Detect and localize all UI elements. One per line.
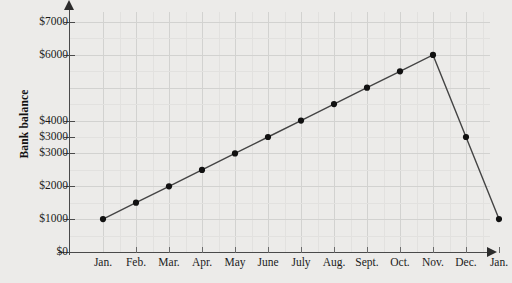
- x-axis-tick: [334, 247, 335, 253]
- grid-line-vertical: [169, 12, 170, 252]
- grid-line-horizontal-minor: [70, 170, 490, 171]
- grid-line-vertical-minor: [384, 12, 385, 252]
- y-axis-tick-label: $6000: [39, 49, 68, 61]
- grid-lines: [70, 12, 490, 252]
- grid-line-horizontal-minor: [70, 71, 490, 72]
- grid-line-vertical: [400, 12, 401, 252]
- grid-line-horizontal-minor: [70, 203, 490, 204]
- y-axis-title: Bank balance: [18, 74, 30, 174]
- y-axis-tick-label: $0: [57, 246, 69, 258]
- x-axis-tick: [367, 247, 368, 253]
- grid-line-vertical: [367, 12, 368, 252]
- y-axis-tick-label: $4000: [39, 115, 68, 127]
- y-axis-arrow-icon: [64, 0, 74, 10]
- grid-line-vertical-minor: [186, 12, 187, 252]
- y-axis-tick-label: $7000: [39, 16, 68, 28]
- grid-line-horizontal: [70, 153, 490, 154]
- grid-line-vertical-minor: [153, 12, 154, 252]
- grid-line-vertical: [466, 12, 467, 252]
- x-axis-tick: [499, 247, 500, 253]
- x-axis-tick: [202, 247, 203, 253]
- grid-line-vertical: [301, 12, 302, 252]
- y-axis-tick-label: $1000: [39, 213, 68, 225]
- grid-line-vertical-minor: [417, 12, 418, 252]
- x-axis-tick: [301, 247, 302, 253]
- y-axis-line: [69, 6, 70, 255]
- grid-line-horizontal: [70, 186, 490, 187]
- grid-line-vertical-minor: [285, 12, 286, 252]
- x-axis-tick: [433, 247, 434, 253]
- grid-line-vertical-minor: [351, 12, 352, 252]
- y-axis-tick-label: $3000: [39, 131, 68, 143]
- grid-line-horizontal: [70, 219, 490, 220]
- x-axis-tick: [466, 247, 467, 253]
- grid-line-horizontal-minor: [70, 137, 490, 138]
- x-axis-tick: [169, 247, 170, 253]
- grid-line-vertical-minor: [120, 12, 121, 252]
- grid-line-horizontal-minor: [70, 38, 490, 39]
- x-axis-line: [58, 252, 490, 253]
- grid-line-horizontal: [70, 55, 490, 56]
- grid-line-vertical-minor: [318, 12, 319, 252]
- x-axis-tick-label: Jan.: [475, 256, 512, 268]
- grid-line-vertical-minor: [252, 12, 253, 252]
- grid-line-horizontal: [70, 88, 490, 89]
- x-axis-tick: [235, 247, 236, 253]
- grid-line-horizontal: [70, 121, 490, 122]
- grid-line-vertical: [334, 12, 335, 252]
- grid-line-vertical: [235, 12, 236, 252]
- data-point: [496, 216, 502, 222]
- grid-line-vertical-minor: [219, 12, 220, 252]
- grid-line-vertical: [103, 12, 104, 252]
- grid-line-horizontal-minor: [70, 104, 490, 105]
- grid-line-horizontal-minor: [70, 236, 490, 237]
- plot-area: [70, 12, 490, 252]
- grid-line-vertical-minor: [450, 12, 451, 252]
- grid-line-horizontal: [70, 22, 490, 23]
- x-axis-tick: [400, 247, 401, 253]
- x-axis-tick: [268, 247, 269, 253]
- grid-line-vertical: [433, 12, 434, 252]
- grid-line-vertical: [136, 12, 137, 252]
- y-axis-tick-label: $2000: [39, 180, 68, 192]
- y-axis-tick-label: $3000: [39, 147, 68, 159]
- x-axis-tick: [136, 247, 137, 253]
- grid-line-vertical: [202, 12, 203, 252]
- grid-line-vertical-minor: [483, 12, 484, 252]
- grid-line-vertical: [268, 12, 269, 252]
